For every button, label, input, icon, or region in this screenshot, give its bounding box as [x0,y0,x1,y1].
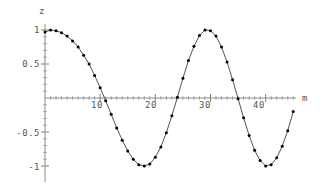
data-point [264,165,267,168]
data-point [181,77,184,80]
data-point [77,46,80,49]
data-point [55,29,58,32]
data-point [215,35,218,38]
data-point [104,99,107,102]
data-point [60,31,63,34]
data-point [281,145,284,148]
data-point [93,74,96,77]
x-tick-label-30: 30 [199,100,211,110]
data-point [71,39,74,42]
data-point [226,60,229,63]
data-point [203,29,206,32]
y-tick-label-minus0point5: -0.5 [2,128,40,138]
cosine-plot-figure [0,0,327,191]
data-point [187,59,190,62]
data-point [220,46,223,49]
data-point [66,35,69,38]
data-point [248,134,251,137]
data-point [115,126,118,129]
plot-container: z m 1 0.5 -0.5 -1 10 20 30 40 [0,0,327,191]
data-point [49,29,52,32]
y-tick-label-1: 1 [20,25,40,35]
data-point [121,139,124,142]
data-point [198,34,201,37]
data-point [231,78,234,81]
data-point [137,163,140,166]
x-tick-label-20: 20 [145,100,157,110]
data-point [275,156,278,159]
data-point [170,114,173,117]
data-point [82,54,85,57]
y-axis-title: z [39,6,44,16]
data-point [192,45,195,48]
data-point [209,29,212,32]
data-point [148,162,151,165]
data-point [292,110,295,113]
data-point [270,163,273,166]
data-point [44,31,47,34]
data-point [126,150,129,153]
data-point [286,129,289,132]
x-tick-label-40: 40 [253,100,265,110]
data-point [88,63,91,66]
data-point [110,113,113,116]
x-tick-label-10: 10 [91,100,103,110]
y-tick-label-minus1: -1 [10,162,40,172]
data-point [99,86,102,89]
x-axis-title: m [302,93,307,103]
data-point [143,165,146,168]
data-point [132,158,135,161]
data-point [259,159,262,162]
data-point [159,145,162,148]
data-point [165,131,168,134]
data-point [253,149,256,152]
data-point [242,116,245,119]
data-point [237,97,240,100]
data-point [176,96,179,99]
y-tick-label-0point5: 0.5 [8,59,40,69]
data-point [154,156,157,159]
